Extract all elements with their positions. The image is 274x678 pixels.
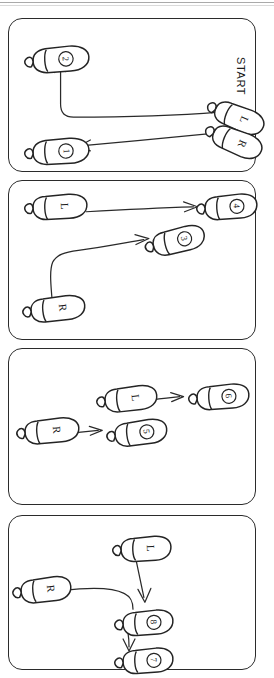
footprint-label: 7	[149, 657, 158, 662]
footprint-label: R	[51, 426, 63, 434]
footprint-2: 2	[22, 43, 92, 78]
footprint-l: L	[110, 533, 173, 564]
footprint-label: 1	[62, 149, 71, 154]
panel-4: L R 8	[8, 515, 256, 670]
footprint-label: R	[45, 584, 57, 592]
footprint-8: 8	[112, 607, 176, 639]
footprint-1: 1	[22, 135, 91, 169]
step-diagram-sheet: 2 1 L	[0, 0, 274, 678]
panel-2: L 4 3	[8, 180, 256, 340]
footprint-label: 4	[232, 203, 241, 208]
scan-artifact-line	[0, 2, 274, 3]
footprint-label: R	[57, 303, 69, 311]
footprint-label: 8	[149, 619, 158, 624]
panel-3: L 6 R	[8, 348, 256, 505]
footprint-4: 4	[194, 191, 260, 224]
footprint-label: L	[59, 202, 70, 209]
footprint-l: L	[22, 191, 89, 223]
footprint-label: 6	[224, 393, 233, 398]
footprint-label: L	[129, 394, 141, 402]
footprint-label: 5	[141, 429, 150, 435]
footprint-7: 7	[112, 645, 176, 677]
footprint-6: 6	[186, 381, 252, 414]
scan-artifact-line-secondary	[0, 5, 274, 6]
footprint-r: R	[14, 414, 82, 449]
panel-1: 2 1 L	[8, 18, 256, 172]
start-label: START	[235, 57, 247, 95]
footprint-label: L	[145, 544, 156, 551]
footprint-label: 2	[61, 56, 70, 61]
